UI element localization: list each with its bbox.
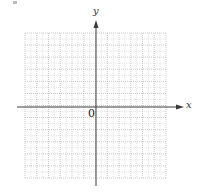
coordinate-plane (0, 0, 201, 196)
x-axis-arrow-icon (176, 105, 184, 110)
y-axis-label: y (93, 6, 99, 16)
origin-label: 0 (88, 108, 95, 119)
x-axis-label: x (186, 100, 192, 110)
y-axis-arrow-icon (94, 20, 99, 28)
